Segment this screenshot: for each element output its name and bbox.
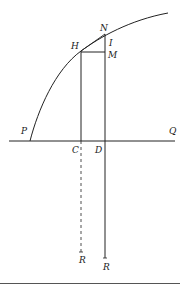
chord-hn (81, 34, 105, 51)
label-i: I (108, 38, 113, 48)
label-q: Q (169, 126, 177, 136)
label-n: N (99, 23, 109, 33)
label-h: H (70, 41, 79, 51)
label-r-dashed: R (78, 255, 86, 265)
curve-phn (30, 13, 168, 141)
diagram-canvas: P Q H N I M C D R R (0, 0, 188, 285)
label-d: D (94, 145, 102, 155)
label-c: C (72, 145, 79, 155)
label-r-solid: R (102, 262, 110, 272)
label-m: M (107, 50, 118, 60)
label-p: P (20, 126, 28, 136)
